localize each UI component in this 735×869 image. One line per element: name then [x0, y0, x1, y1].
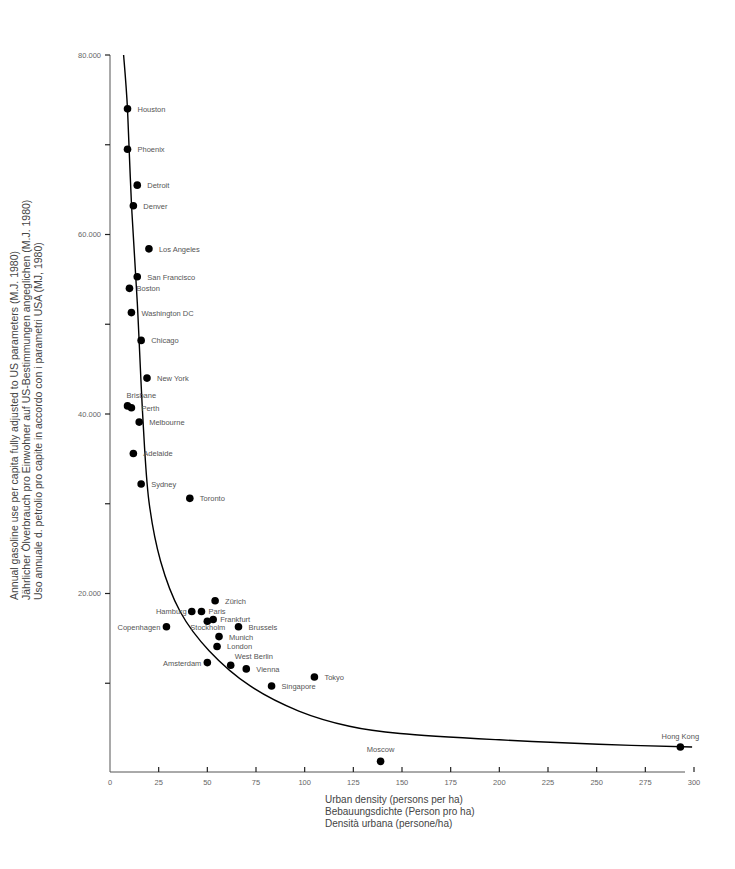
- point-label: San Francisco: [147, 273, 195, 282]
- point-label: Toronto: [200, 494, 225, 503]
- point-label: Detroit: [147, 181, 170, 190]
- point-marker: [188, 608, 196, 616]
- y-axis-title-it: Uso annuale d. petrolio pro capite in ac…: [32, 180, 44, 600]
- point-marker: [124, 105, 132, 113]
- point-label: Houston: [138, 105, 166, 114]
- point-label: Hamburg: [156, 607, 187, 616]
- x-axis-title-de: Bebauungsdichte (Person pro ha): [325, 806, 475, 818]
- point-marker: [186, 495, 194, 503]
- point-label: Singapore: [282, 682, 316, 691]
- point-marker: [133, 181, 141, 189]
- x-tick-label: 125: [347, 778, 360, 787]
- data-point: Detroit: [133, 181, 170, 190]
- data-point: New York: [143, 374, 189, 383]
- point-marker: [235, 623, 243, 631]
- point-marker: [128, 404, 136, 412]
- point-marker: [124, 145, 132, 153]
- point-label: West Berlin: [235, 652, 273, 661]
- point-label: Melbourne: [149, 418, 184, 427]
- data-point: Vienna: [242, 665, 280, 674]
- scatter-chart: 20.00040.00060.00080.0000255075100125150…: [0, 0, 735, 869]
- data-point: Moscow: [367, 745, 395, 765]
- point-marker: [227, 662, 235, 670]
- point-marker: [198, 608, 206, 616]
- point-marker: [137, 480, 145, 488]
- point-label: Denver: [143, 202, 168, 211]
- y-tick-label: 40.000: [78, 410, 101, 419]
- data-point: Sydney: [137, 480, 176, 489]
- data-point: Brussels: [235, 623, 278, 632]
- point-label: Boston: [136, 284, 159, 293]
- point-marker: [268, 682, 276, 690]
- y-tick-label: 20.000: [78, 589, 101, 598]
- trend-curve-path: [124, 55, 693, 747]
- y-axis-title: Annual gasoline use per capita fully adj…: [8, 180, 68, 600]
- point-label: Stockholm: [190, 623, 225, 632]
- point-label: Perth: [141, 404, 159, 413]
- trend-curve: [124, 55, 693, 747]
- point-marker: [311, 673, 319, 681]
- point-marker: [377, 758, 385, 766]
- data-point: Hong Kong: [662, 732, 700, 751]
- point-marker: [137, 337, 145, 345]
- data-point: Singapore: [268, 682, 316, 691]
- point-label: New York: [157, 374, 189, 383]
- data-point: Adelaide: [130, 449, 173, 458]
- point-marker: [215, 633, 223, 641]
- data-point: Munich: [215, 633, 253, 642]
- point-label: Los Angeles: [159, 245, 200, 254]
- point-label: Sydney: [151, 480, 176, 489]
- point-label: Munich: [229, 633, 253, 642]
- data-point: Toronto: [186, 494, 225, 503]
- x-axis-title-en: Urban density (persons per ha): [325, 794, 475, 806]
- data-point: Tokyo: [311, 673, 344, 682]
- point-marker: [126, 285, 134, 293]
- point-label: Adelaide: [143, 449, 172, 458]
- point-label: Brussels: [248, 623, 277, 632]
- point-marker: [242, 665, 250, 673]
- point-label: Tokyo: [324, 673, 344, 682]
- point-label: Phoenix: [138, 145, 165, 154]
- data-point: Chicago: [137, 336, 178, 345]
- x-tick-label: 300: [688, 778, 701, 787]
- point-marker: [135, 418, 143, 426]
- y-axis-title-en: Annual gasoline use per capita fully adj…: [8, 180, 20, 600]
- point-label: Washington DC: [141, 309, 194, 318]
- x-tick-label: 250: [590, 778, 603, 787]
- point-marker: [677, 743, 685, 751]
- point-label: Chicago: [151, 336, 179, 345]
- point-marker: [130, 202, 138, 210]
- data-point: Amsterdam: [163, 659, 211, 668]
- point-label: Vienna: [256, 665, 280, 674]
- point-marker: [204, 659, 212, 667]
- point-label: Frankfurt: [220, 615, 251, 624]
- y-tick-label: 80.000: [78, 51, 101, 60]
- x-tick-label: 200: [493, 778, 506, 787]
- point-label: Zürich: [225, 597, 246, 606]
- x-tick-label: 0: [108, 778, 112, 787]
- x-tick-label: 50: [203, 778, 211, 787]
- x-tick-label: 100: [298, 778, 311, 787]
- x-tick-label: 150: [396, 778, 409, 787]
- x-tick-label: 225: [542, 778, 555, 787]
- data-point: Zürich: [211, 597, 246, 606]
- point-marker: [145, 245, 153, 253]
- data-points: HoustonPhoenixDetroitDenverLos AngelesSa…: [117, 105, 699, 765]
- point-label: Brisbane: [127, 391, 157, 400]
- point-marker: [211, 597, 219, 605]
- data-point: Los Angeles: [145, 245, 200, 254]
- x-tick-label: 25: [154, 778, 162, 787]
- x-tick-label: 175: [444, 778, 457, 787]
- point-label: Amsterdam: [163, 659, 201, 668]
- point-label: Moscow: [367, 745, 395, 754]
- data-point: San Francisco: [133, 273, 195, 282]
- point-marker: [130, 450, 138, 458]
- x-tick-label: 75: [252, 778, 260, 787]
- y-tick-label: 60.000: [78, 230, 101, 239]
- data-point: Denver: [130, 202, 168, 211]
- x-tick-label: 275: [639, 778, 652, 787]
- data-point: London: [213, 642, 252, 651]
- point-marker: [133, 273, 141, 281]
- point-label: Copenhagen: [117, 623, 160, 632]
- point-marker: [163, 623, 171, 631]
